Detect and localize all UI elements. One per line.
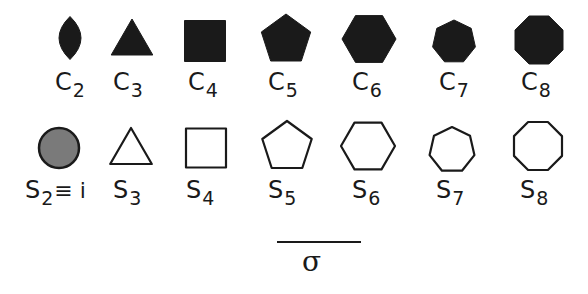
c6-hexagon-icon xyxy=(342,16,396,63)
inversion-equivalence: ≡ i xyxy=(54,178,86,203)
label-symbol: S xyxy=(268,176,283,204)
label-symbol: C xyxy=(188,68,205,96)
label-order-subscript: 6 xyxy=(368,187,380,209)
s8-label: S8 xyxy=(520,178,548,202)
s3-triangle-icon xyxy=(110,128,152,164)
s3-label: S3 xyxy=(113,178,141,202)
label-order-subscript: 5 xyxy=(286,79,298,101)
s4-square-icon xyxy=(186,129,226,168)
label-order-subscript: 3 xyxy=(131,79,143,101)
c7-heptagon-icon xyxy=(433,20,476,62)
label-symbol: S xyxy=(520,176,535,204)
s5-pentagon-icon xyxy=(262,121,311,168)
s4-label: S4 xyxy=(186,178,214,202)
label-order-subscript: 2 xyxy=(73,79,85,101)
s7-heptagon-icon xyxy=(430,127,475,171)
label-order-subscript: 7 xyxy=(452,187,464,209)
symmetry-diagram xyxy=(0,0,588,294)
s5-label: S5 xyxy=(268,178,296,202)
label-symbol: S xyxy=(186,176,201,204)
c7-label: C7 xyxy=(439,70,469,94)
c5-label: C5 xyxy=(268,70,298,94)
s6-hexagon-icon xyxy=(341,123,395,170)
s7-label: S7 xyxy=(436,178,464,202)
label-symbol: C xyxy=(268,68,285,96)
c8-label: C8 xyxy=(521,70,551,94)
c2-label: C2 xyxy=(55,70,85,94)
label-order-subscript: 8 xyxy=(536,187,548,209)
label-order-subscript: 4 xyxy=(202,187,214,209)
c3-label: C3 xyxy=(113,70,143,94)
label-symbol: C xyxy=(113,68,130,96)
label-order-subscript: 5 xyxy=(284,187,296,209)
c6-label: C6 xyxy=(352,70,382,94)
label-symbol: S xyxy=(25,176,40,204)
c8-octagon-icon xyxy=(515,16,563,64)
improper-row xyxy=(39,121,562,171)
label-symbol: S xyxy=(352,176,367,204)
label-symbol: C xyxy=(352,68,369,96)
label-order-subscript: 7 xyxy=(457,79,469,101)
c2-lens-icon xyxy=(59,17,81,60)
label-symbol: S xyxy=(436,176,451,204)
label-symbol: C xyxy=(521,68,538,96)
mirror-plane-bar xyxy=(277,241,361,243)
label-order-subscript: 2 xyxy=(41,187,53,209)
c3-triangle-icon xyxy=(111,19,153,55)
label-order-subscript: 3 xyxy=(129,187,141,209)
label-order-subscript: 6 xyxy=(370,79,382,101)
mirror-plane-symbol: σ xyxy=(302,248,321,276)
label-symbol: C xyxy=(55,68,72,96)
s2-circle-icon xyxy=(39,128,79,168)
s2-label: S2≡ i xyxy=(25,178,86,202)
label-order-subscript: 4 xyxy=(206,79,218,101)
s6-label: S6 xyxy=(352,178,380,202)
label-symbol: S xyxy=(113,176,128,204)
cyclic-row xyxy=(59,14,563,64)
s8-octagon-icon xyxy=(514,122,562,170)
label-symbol: C xyxy=(439,68,456,96)
c4-square-icon xyxy=(185,21,226,62)
c5-pentagon-icon xyxy=(261,14,310,61)
c4-label: C4 xyxy=(188,70,218,94)
label-order-subscript: 8 xyxy=(539,79,551,101)
